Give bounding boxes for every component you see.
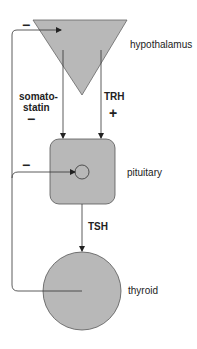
pituitary-feedback-sign: − [22, 157, 30, 173]
pituitary-shape [50, 139, 115, 204]
trh-label: TRH [104, 91, 125, 102]
trh-sign: + [109, 105, 117, 121]
tsh-label: TSH [88, 221, 108, 232]
hypothalamus-feedback-sign: − [22, 17, 30, 33]
hypothalamus-label: hypothalamus [130, 39, 192, 50]
hypothalamus-shape [33, 20, 127, 95]
thyroid-label: thyroid [128, 285, 158, 296]
pituitary-label: pituitary [127, 167, 162, 178]
somatostatin-label-line1: somato- [19, 91, 58, 102]
endocrine-diagram: hypothalamus pituitary thyroid somato- s… [0, 0, 197, 349]
somatostatin-sign: − [27, 111, 35, 127]
